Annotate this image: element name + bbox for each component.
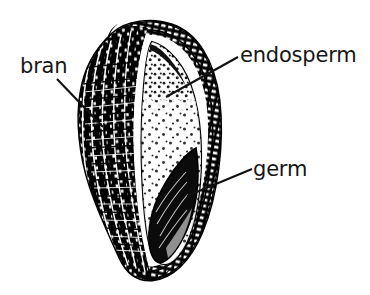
illustration-figure: bran endosperm germ <box>0 0 370 295</box>
label-germ: germ <box>253 157 307 181</box>
label-bran: bran <box>20 54 67 78</box>
label-endosperm: endosperm <box>240 43 357 67</box>
kernel-illustration <box>79 21 221 280</box>
grain-kernel-diagram: bran endosperm germ <box>0 0 370 295</box>
